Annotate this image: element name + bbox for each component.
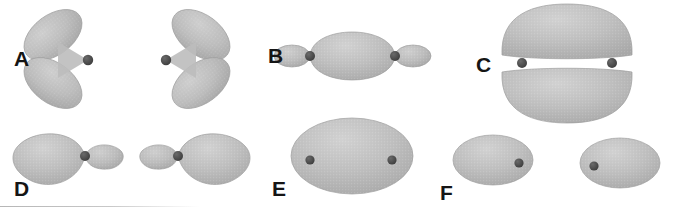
nucleus-dot-right (390, 51, 400, 61)
footer-rule (0, 206, 200, 207)
nucleus-dot-left (305, 51, 315, 61)
nucleus-dot (80, 151, 90, 161)
nucleus-dot-left (517, 58, 527, 68)
orbital-figure: A B C D E F (0, 0, 675, 214)
central-lens-stipple (310, 32, 395, 80)
nucleus-dot (514, 158, 523, 167)
orbital-canvas (0, 0, 675, 214)
panel-label-f: F (440, 182, 453, 203)
panel-label-d: D (14, 178, 29, 199)
panel-label-c: C (476, 54, 491, 75)
panel-a-group (15, 0, 240, 119)
panel-label-a: A (14, 48, 29, 69)
nucleus-dot (83, 55, 93, 65)
nucleus-dot (589, 161, 598, 170)
panel-e-group (291, 118, 413, 194)
panel-d-group (13, 134, 250, 185)
nucleus-dot (173, 151, 183, 161)
nucleus-dot-right (607, 58, 617, 68)
nucleus-dot-left (305, 155, 314, 164)
unit-d-right (140, 134, 250, 185)
unit-d-left (13, 134, 123, 185)
panel-b-group (274, 32, 431, 80)
outer-lobe-right-stipple (395, 45, 431, 67)
unit-f-right (580, 138, 660, 188)
panel-label-b: B (268, 45, 283, 66)
nucleus-dot (161, 55, 171, 65)
lower-dome-stipple (502, 68, 632, 123)
upper-dome-stipple (502, 4, 632, 59)
panel-c-group (502, 4, 632, 123)
panel-f-group (453, 135, 660, 188)
panel-label-e: E (272, 178, 286, 199)
unit-a-right (161, 0, 240, 119)
nucleus-dot-right (387, 155, 396, 164)
unit-f-left (453, 135, 533, 185)
